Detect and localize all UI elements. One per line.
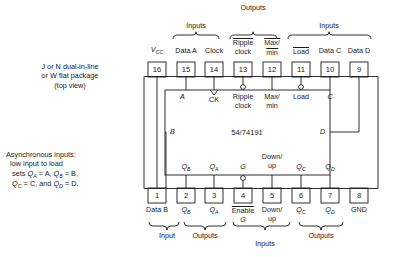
chip-output-label-qc: QC bbox=[296, 163, 305, 172]
pin-number-15: 15 bbox=[182, 66, 190, 74]
bracket-bottom-input bbox=[149, 222, 179, 230]
group-label-bottom-inputs: Inputs bbox=[255, 240, 275, 249]
pin-number-3: 3 bbox=[212, 192, 216, 200]
chip-input-label-c: C bbox=[327, 93, 332, 102]
chip-input-label-g: G bbox=[240, 163, 246, 172]
chip-output-label-ripple-clock: Rippleclock bbox=[233, 93, 253, 110]
pin-label-ripple-clock: Rippleclock bbox=[233, 38, 253, 56]
pin-number-9: 9 bbox=[357, 66, 361, 74]
pin-number-13: 13 bbox=[239, 66, 247, 74]
diagram-vectors bbox=[0, 0, 397, 257]
chip-input-label-a: A bbox=[180, 93, 185, 102]
bubble-enable-g bbox=[241, 176, 246, 181]
pin-number-12: 12 bbox=[268, 66, 276, 74]
chip-input-label-b: B bbox=[170, 128, 175, 137]
chip-part-number: 54/74191 bbox=[231, 128, 263, 137]
async-inputs-note: Asynchronous inputs: low input to load s… bbox=[6, 150, 140, 190]
bracket-top-inputs-2 bbox=[288, 32, 371, 39]
bubble-ripple-clock bbox=[241, 85, 246, 90]
pin-label-qa: QA bbox=[209, 206, 218, 215]
chip-output-label-qd: QD bbox=[325, 163, 334, 172]
pin-number-4: 4 bbox=[241, 192, 245, 200]
pin-number-10: 10 bbox=[326, 66, 334, 74]
pin-label-clock: Clock bbox=[205, 47, 223, 56]
pin-label-load: Load bbox=[293, 47, 309, 57]
pin-number-7: 7 bbox=[328, 192, 332, 200]
pin-number-11: 11 bbox=[297, 66, 305, 74]
pin-label-qb: QB bbox=[181, 206, 190, 215]
chip-input-label-load: Load bbox=[293, 93, 309, 102]
async-note-line-3: sets QA = A, QB = B, bbox=[12, 169, 78, 178]
pin-label-data-b: Data B bbox=[146, 206, 168, 215]
pin-label-qd: QD bbox=[325, 206, 334, 215]
bracket-top-inputs-1 bbox=[173, 32, 219, 39]
pin-label-data-d: Data D bbox=[348, 47, 370, 56]
group-label-top-inputs-2: Inputs bbox=[319, 22, 339, 31]
pin-label-down-up: Down/up bbox=[262, 206, 282, 223]
async-note-line-1: Asynchronous inputs: bbox=[6, 150, 76, 159]
pin-label-data-a: Data A bbox=[175, 47, 197, 56]
group-label-bottom-outputs-1: Outputs bbox=[192, 232, 217, 241]
pin-number-5: 5 bbox=[270, 192, 274, 200]
bubble-load bbox=[299, 85, 304, 90]
pin-number-16: 16 bbox=[153, 66, 161, 74]
pin-label-enable-g: EnableG bbox=[232, 206, 254, 224]
group-label-top-inputs-1: Inputs bbox=[186, 22, 206, 31]
pin-number-2: 2 bbox=[184, 192, 188, 200]
pin-number-6: 6 bbox=[299, 192, 303, 200]
chip-output-label-max-min: Max/min bbox=[264, 93, 280, 110]
chip-input-label-d: D bbox=[320, 128, 325, 137]
async-note-line-2: low input to load bbox=[10, 159, 63, 168]
chip-input-label-down-up: Down/up bbox=[262, 153, 282, 170]
group-label-bottom-input: Input bbox=[159, 232, 175, 241]
pin-label-max-min: Max/min bbox=[264, 38, 280, 57]
async-note-line-4: QC = C, and QD = D. bbox=[12, 179, 78, 188]
pin-label-vcc: VCC bbox=[151, 46, 163, 55]
pin-label-gnd: GND bbox=[351, 206, 367, 215]
chip-input-label-ck: CK bbox=[209, 96, 219, 105]
pinout-diagram: Inputs Outputs Inputs VCC Data A Clock R… bbox=[0, 0, 397, 257]
bracket-bottom-outputs-1 bbox=[184, 222, 226, 230]
pin-number-8: 8 bbox=[357, 192, 361, 200]
pin-label-qc: QC bbox=[296, 206, 305, 215]
package-note: J or N dual-in-line or W flat package (t… bbox=[6, 62, 134, 90]
group-label-top-outputs: Outputs bbox=[240, 4, 265, 13]
bracket-bottom-outputs-2 bbox=[299, 222, 343, 230]
pin-label-data-c: Data C bbox=[319, 47, 341, 56]
chip-output-label-qb: QB bbox=[181, 163, 190, 172]
lead-9-datad bbox=[330, 77, 359, 132]
pin-number-1: 1 bbox=[155, 192, 159, 200]
group-label-bottom-outputs-2: Outputs bbox=[308, 232, 333, 241]
chip-output-label-qa: QA bbox=[209, 163, 218, 172]
pin-number-14: 14 bbox=[210, 66, 218, 74]
